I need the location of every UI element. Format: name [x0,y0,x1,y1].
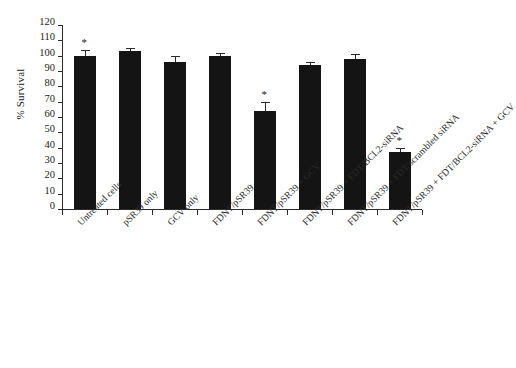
error-bar-cap [261,102,270,103]
error-bar-cap [81,50,90,51]
x-tick-mark [107,210,108,215]
y-tick-label: 10 [25,186,55,197]
bar [74,56,96,209]
y-tick-label: 20 [25,170,55,181]
bar [209,56,231,209]
y-tick-mark [58,117,63,118]
x-tick-mark [332,210,333,215]
error-bar-cap [216,53,225,54]
y-tick-label: 90 [25,63,55,74]
y-tick-mark [58,132,63,133]
error-bar-cap [396,148,405,149]
y-tick-label: 60 [25,109,55,120]
y-tick-label: 110 [25,32,55,43]
y-tick-label: 30 [25,155,55,166]
y-tick-label: 120 [25,17,55,28]
y-tick-mark [58,25,63,26]
y-tick-mark [58,71,63,72]
x-tick-mark [62,210,63,215]
x-tick-mark [422,210,423,215]
bar [254,111,276,209]
error-bar-cap [171,56,180,57]
y-tick-label: 0 [25,201,55,212]
y-tick-mark [58,86,63,87]
bar [164,62,186,209]
y-tick-mark [58,163,63,164]
y-tick-mark [58,178,63,179]
y-tick-label: 70 [25,94,55,105]
y-tick-mark [58,56,63,57]
y-tick-mark [58,148,63,149]
error-bar-stem [265,102,266,111]
x-tick-mark [197,210,198,215]
significance-marker: * [262,89,268,100]
y-tick-mark [58,102,63,103]
y-tick-mark [58,40,63,41]
x-tick-mark [287,210,288,215]
y-tick-mark [58,194,63,195]
error-bar-cap [306,62,315,63]
x-tick-mark [242,210,243,215]
error-bar-cap [351,54,360,55]
error-bar-cap [126,48,135,49]
y-tick-label: 100 [25,48,55,59]
x-tick-mark [152,210,153,215]
y-tick-label: 50 [25,124,55,135]
x-tick-mark [377,210,378,215]
y-tick-label: 40 [25,140,55,151]
significance-marker: * [82,37,88,48]
y-tick-label: 80 [25,78,55,89]
